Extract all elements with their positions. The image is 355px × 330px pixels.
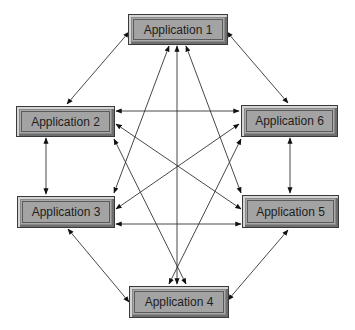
- edge-app1-app5: [186, 46, 241, 193]
- edge-app6-app4: [169, 139, 241, 284]
- edge-app1-app6: [227, 32, 288, 103]
- node-application-3: Application 3: [17, 196, 115, 228]
- node-label: Application 1: [144, 23, 213, 37]
- edge-app2-app4: [114, 139, 186, 284]
- connection-arrows: [0, 0, 355, 330]
- node-label: Application 6: [255, 114, 324, 128]
- node-application-6: Application 6: [241, 105, 338, 137]
- node-label: Application 2: [31, 115, 100, 129]
- node-application-2: Application 2: [16, 106, 115, 137]
- node-label: Application 3: [32, 205, 101, 219]
- node-application-5: Application 5: [242, 195, 339, 228]
- edge-app1-app2: [67, 32, 129, 104]
- node-label: Application 5: [256, 205, 325, 219]
- node-application-1: Application 1: [128, 14, 228, 45]
- point-to-point-integration-diagram: Application 1 Application 2 Application …: [0, 0, 355, 330]
- edge-app5-app4: [228, 230, 288, 300]
- node-application-4: Application 4: [129, 286, 229, 318]
- edge-app3-app4: [68, 229, 129, 302]
- edge-app1-app3: [114, 46, 169, 193]
- node-label: Application 4: [145, 295, 214, 309]
